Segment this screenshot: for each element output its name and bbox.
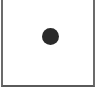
pip-dot (42, 28, 59, 45)
die-face-frame (1, 0, 95, 87)
